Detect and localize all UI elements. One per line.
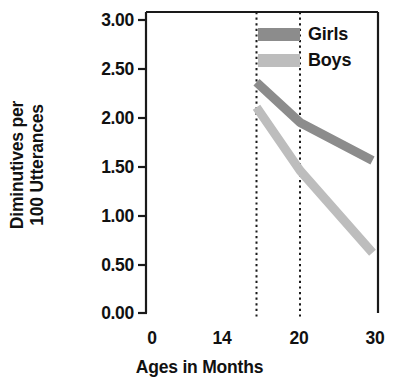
x-tick-label-20: 20 <box>269 328 329 349</box>
x-axis-tick-labels: 0 14 20 30 <box>0 0 399 392</box>
x-tick-label-14: 14 <box>192 328 252 349</box>
x-tick-label-30: 30 <box>345 328 399 349</box>
x-tick-label-0: 0 <box>122 328 182 349</box>
x-axis-title: Ages in Months <box>0 357 399 378</box>
chart-figure: Diminutives per 100 Utterances 3.00 2.50… <box>0 0 399 392</box>
